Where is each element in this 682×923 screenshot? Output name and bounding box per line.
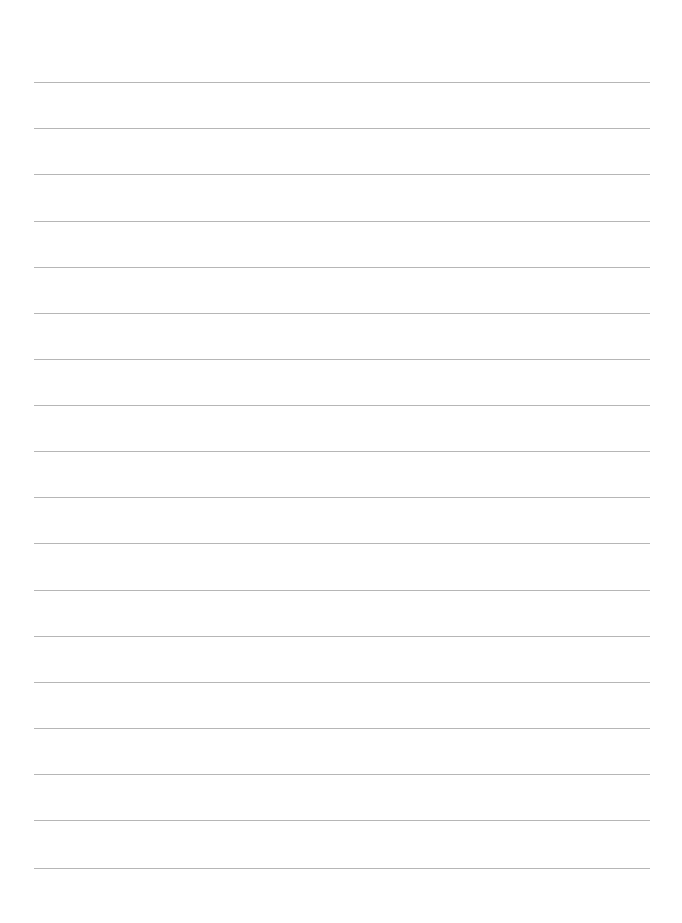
ruled-line	[34, 497, 650, 498]
ruled-line	[34, 82, 650, 83]
lined-paper-page	[0, 0, 682, 923]
ruled-line	[34, 313, 650, 314]
ruled-line	[34, 820, 650, 821]
ruled-line	[34, 359, 650, 360]
ruled-line	[34, 128, 650, 129]
ruled-line	[34, 728, 650, 729]
ruled-line	[34, 174, 650, 175]
ruled-line	[34, 590, 650, 591]
ruled-line	[34, 868, 650, 869]
ruled-line	[34, 636, 650, 637]
ruled-line	[34, 405, 650, 406]
ruled-line	[34, 221, 650, 222]
ruled-line	[34, 451, 650, 452]
ruled-line	[34, 682, 650, 683]
ruled-line	[34, 267, 650, 268]
ruled-line	[34, 774, 650, 775]
ruled-line	[34, 543, 650, 544]
